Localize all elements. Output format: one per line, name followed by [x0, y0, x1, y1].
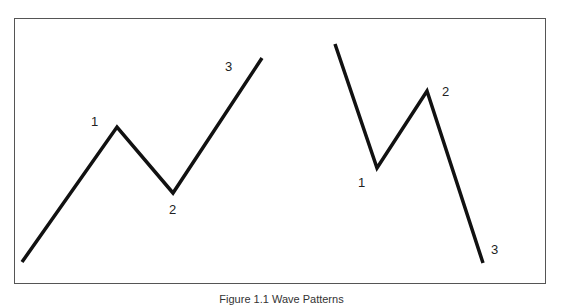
uptrend-label-3: 3 [225, 60, 232, 73]
downtrend-wave-line [335, 44, 483, 263]
downtrend-label-1: 1 [358, 176, 365, 189]
downtrend-label-2: 2 [442, 85, 449, 98]
uptrend-label-2: 2 [169, 203, 176, 216]
uptrend-label-1: 1 [91, 115, 98, 128]
downtrend-label-3: 3 [491, 243, 498, 256]
uptrend-wave-line [22, 58, 262, 262]
figure-caption: Figure 1.1 Wave Patterns [0, 293, 563, 305]
